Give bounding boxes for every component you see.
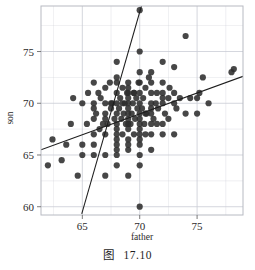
figure-caption: 图17.10 [0, 246, 255, 262]
caption-number: 17.10 [124, 249, 152, 261]
y-axis: 60657075 [23, 46, 41, 213]
svg-text:60: 60 [23, 201, 35, 213]
svg-text:75: 75 [192, 220, 204, 232]
svg-text:70: 70 [134, 220, 146, 232]
svg-text:65: 65 [77, 220, 89, 232]
x-axis: 657075 [77, 215, 203, 232]
y-axis-title: son [5, 111, 15, 124]
svg-text:70: 70 [23, 97, 35, 109]
figure-container: 657075 60657075 father son 图17.10 [0, 0, 255, 270]
svg-text:65: 65 [23, 149, 35, 161]
caption-label: 图 [103, 249, 115, 261]
scatter-plot: 657075 60657075 father son [0, 0, 255, 270]
svg-text:75: 75 [23, 46, 35, 58]
x-axis-title: father [131, 232, 154, 242]
